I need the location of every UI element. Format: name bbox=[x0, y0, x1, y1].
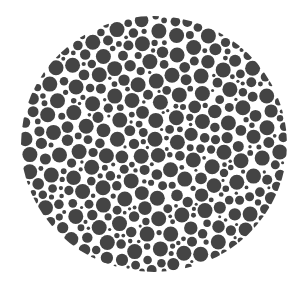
dot bbox=[66, 105, 81, 120]
dot bbox=[134, 149, 149, 164]
dot bbox=[124, 60, 135, 71]
dot bbox=[241, 170, 245, 174]
dot bbox=[116, 41, 122, 47]
dot bbox=[151, 40, 157, 46]
dot bbox=[214, 202, 226, 214]
dot bbox=[181, 74, 192, 85]
dot bbox=[221, 179, 224, 182]
dot bbox=[125, 87, 130, 92]
dot bbox=[65, 58, 80, 73]
dot bbox=[127, 244, 142, 259]
dot bbox=[84, 160, 99, 175]
dot bbox=[22, 147, 37, 162]
dot bbox=[202, 48, 207, 53]
dot bbox=[177, 126, 183, 132]
dot bbox=[234, 236, 237, 239]
dot bbox=[277, 115, 283, 121]
dot bbox=[59, 194, 64, 199]
dot bbox=[137, 67, 145, 75]
dot bbox=[80, 95, 85, 100]
dot bbox=[142, 54, 157, 69]
dot bbox=[263, 137, 274, 148]
dot bbox=[156, 230, 161, 235]
dot bbox=[162, 86, 171, 95]
dot bbox=[56, 214, 63, 221]
dot bbox=[255, 151, 270, 166]
dot bbox=[234, 153, 249, 168]
dot bbox=[165, 125, 174, 134]
dot bbox=[107, 89, 122, 104]
dot bbox=[129, 112, 135, 118]
dot bbox=[186, 31, 194, 39]
dot bbox=[246, 77, 256, 87]
dot bbox=[167, 258, 179, 270]
dot bbox=[49, 143, 54, 148]
dot bbox=[62, 210, 66, 214]
dot bbox=[245, 186, 249, 190]
dot bbox=[63, 90, 68, 95]
dot bbox=[169, 182, 176, 189]
dot bbox=[129, 162, 135, 168]
dot bbox=[116, 151, 129, 164]
dot bbox=[213, 78, 223, 88]
dot bbox=[187, 144, 194, 151]
dot bbox=[204, 240, 209, 245]
dot bbox=[42, 100, 48, 106]
dot bbox=[226, 225, 236, 235]
dot bbox=[129, 139, 139, 149]
dot bbox=[38, 166, 43, 171]
dot bbox=[131, 77, 146, 92]
dot bbox=[160, 60, 169, 69]
dot bbox=[108, 228, 111, 231]
dot bbox=[68, 209, 83, 224]
dot bbox=[184, 221, 197, 234]
dot bbox=[57, 222, 68, 233]
dot bbox=[267, 186, 270, 189]
dot bbox=[140, 227, 155, 242]
dot bbox=[32, 178, 44, 190]
dot bbox=[223, 56, 228, 61]
dot bbox=[169, 28, 184, 43]
dot bbox=[248, 92, 258, 102]
dot bbox=[142, 29, 147, 34]
dot bbox=[209, 43, 221, 55]
dot-plate bbox=[0, 0, 304, 288]
dot bbox=[161, 18, 167, 24]
dot bbox=[200, 133, 210, 143]
dot bbox=[148, 180, 154, 186]
dot bbox=[162, 111, 165, 114]
dot bbox=[88, 60, 96, 68]
dot bbox=[177, 172, 192, 187]
dot bbox=[189, 123, 193, 127]
dot bbox=[117, 192, 132, 207]
dot bbox=[123, 40, 133, 50]
dot bbox=[112, 216, 127, 231]
dot bbox=[215, 95, 224, 104]
dot bbox=[230, 74, 235, 79]
dot bbox=[142, 179, 146, 183]
dot bbox=[170, 219, 175, 224]
dot bbox=[67, 158, 76, 167]
dot bbox=[235, 223, 238, 226]
dot bbox=[103, 98, 106, 101]
dot bbox=[54, 200, 64, 210]
dot bbox=[79, 167, 83, 171]
dot bbox=[85, 96, 100, 111]
dot bbox=[40, 107, 55, 122]
dot bbox=[235, 196, 244, 205]
dot bbox=[171, 190, 183, 202]
dot bbox=[196, 144, 205, 153]
dot bbox=[166, 109, 169, 112]
dot bbox=[129, 120, 132, 123]
dot bbox=[87, 210, 97, 220]
dot bbox=[243, 117, 248, 122]
dot bbox=[105, 213, 112, 220]
dot bbox=[148, 113, 163, 128]
dot bbox=[152, 169, 163, 180]
dot bbox=[58, 113, 65, 120]
dot bbox=[91, 194, 96, 199]
dot bbox=[62, 135, 73, 146]
dot bbox=[135, 36, 150, 51]
dot bbox=[118, 74, 129, 85]
dot bbox=[135, 186, 149, 200]
